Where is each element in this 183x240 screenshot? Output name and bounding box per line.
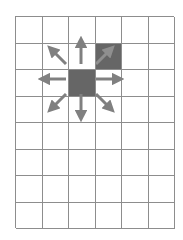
grid-cell-r1c6[interactable] — [149, 17, 176, 44]
grid-cell-r8c1[interactable] — [16, 203, 43, 230]
grid-cell-r4c4[interactable] — [96, 97, 123, 124]
grid-cell-r2c6[interactable] — [149, 44, 176, 71]
grid-cell-r3c3-source[interactable] — [69, 70, 96, 97]
grid-cell-r4c1[interactable] — [16, 97, 43, 124]
grid-cell-r5c2[interactable] — [43, 123, 70, 150]
grid-cell-r1c1[interactable] — [16, 17, 43, 44]
grid-cell-r7c1[interactable] — [16, 176, 43, 203]
grid-cell-r4c2[interactable] — [43, 97, 70, 124]
grid-cell-r8c5[interactable] — [122, 203, 149, 230]
grid-cell-r1c4[interactable] — [96, 17, 123, 44]
grid-cell-r3c5[interactable] — [122, 70, 149, 97]
grid-cell-r7c3[interactable] — [69, 176, 96, 203]
grid-cell-r8c4[interactable] — [96, 203, 123, 230]
grid-cell-r6c1[interactable] — [16, 150, 43, 177]
grid-cell-r5c1[interactable] — [16, 123, 43, 150]
grid-cell-r5c3[interactable] — [69, 123, 96, 150]
grid-cell-r6c6[interactable] — [149, 150, 176, 177]
grid-cell-r3c2[interactable] — [43, 70, 70, 97]
grid-cell-r4c3[interactable] — [69, 97, 96, 124]
grid-cell-r6c3[interactable] — [69, 150, 96, 177]
grid-cell-r2c3[interactable] — [69, 44, 96, 71]
grid-cell-r2c1[interactable] — [16, 44, 43, 71]
grid-cell-r8c2[interactable] — [43, 203, 70, 230]
grid-cell-r8c3[interactable] — [69, 203, 96, 230]
grid-cell-r1c5[interactable] — [122, 17, 149, 44]
grid-cell-r8c6[interactable] — [149, 203, 176, 230]
grid-cell-r1c3[interactable] — [69, 17, 96, 44]
grid-cell-r5c6[interactable] — [149, 123, 176, 150]
grid-board — [15, 16, 174, 228]
grid-cell-r3c6[interactable] — [149, 70, 176, 97]
grid-cell-r3c1[interactable] — [16, 70, 43, 97]
grid-cell-r6c4[interactable] — [96, 150, 123, 177]
grid-cell-r7c5[interactable] — [122, 176, 149, 203]
grid-cell-r4c6[interactable] — [149, 97, 176, 124]
figure-root — [0, 0, 183, 240]
grid-cell-r7c2[interactable] — [43, 176, 70, 203]
grid-cell-r2c5[interactable] — [122, 44, 149, 71]
grid-cell-r7c4[interactable] — [96, 176, 123, 203]
grid-cell-r7c6[interactable] — [149, 176, 176, 203]
grid-cell-r5c5[interactable] — [122, 123, 149, 150]
grid-cell-r6c2[interactable] — [43, 150, 70, 177]
grid-cell-r1c2[interactable] — [43, 17, 70, 44]
grid-cell-r2c2[interactable] — [43, 44, 70, 71]
grid-cell-r5c4[interactable] — [96, 123, 123, 150]
grid-cell-r4c5[interactable] — [122, 97, 149, 124]
grid-cell-r2c4-target[interactable] — [96, 44, 123, 71]
grid-cell-r3c4[interactable] — [96, 70, 123, 97]
grid-cell-r6c5[interactable] — [122, 150, 149, 177]
